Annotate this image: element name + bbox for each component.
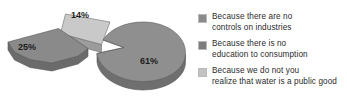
legend-item-2[interactable]: Because there is no education to consump… — [198, 39, 347, 60]
slice-61-group[interactable]: 61% — [97, 22, 186, 90]
legend-label-3: Because we do not you realize that water… — [212, 66, 337, 87]
legend-item-3[interactable]: Because we do not you realize that water… — [198, 66, 347, 87]
legend-swatch-icon-2 — [198, 41, 207, 50]
legend-item-1[interactable]: Because there are no controls on industr… — [198, 12, 347, 33]
slice-25-label: 25% — [18, 42, 36, 52]
pie-chart-svg: 14% 25% 61% — [0, 0, 195, 102]
pie-chart-figure: 14% 25% 61% — [0, 0, 347, 102]
pie-chart-plot-area: 14% 25% 61% — [0, 0, 195, 102]
legend-label-2: Because there is no education to consump… — [212, 39, 308, 60]
legend-label-1: Because there are no controls on industr… — [212, 12, 292, 33]
slice-61-label: 61% — [140, 56, 158, 66]
legend-swatch-icon-3 — [198, 68, 207, 77]
slice-14-label: 14% — [71, 10, 89, 20]
chart-legend: Because there are no controls on industr… — [198, 12, 347, 96]
legend-swatch-icon-1 — [198, 14, 207, 23]
